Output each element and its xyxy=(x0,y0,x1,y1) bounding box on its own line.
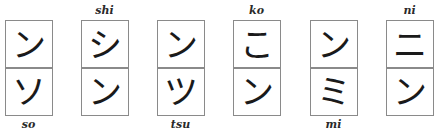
character-pair: ニ ン xyxy=(386,20,433,115)
character-cell-bottom: ツ xyxy=(157,67,205,116)
character-cell-top: ン xyxy=(310,20,358,69)
character-cell-bottom: ン xyxy=(81,67,129,116)
character-cell-bottom: ソ xyxy=(5,67,53,116)
character-cell-bottom: ン xyxy=(386,67,434,116)
romaji-label: shi xyxy=(81,4,128,17)
character-cell-top: ン xyxy=(157,20,205,69)
romaji-label: mi xyxy=(310,118,357,131)
romaji-label: tsu xyxy=(157,118,204,131)
character-cell-top: ニ xyxy=(386,20,434,69)
character-pair: ン ソ xyxy=(5,20,52,115)
romaji-label: so xyxy=(5,118,52,131)
character-pair: こ ン xyxy=(233,20,280,115)
romaji-label: ko xyxy=(233,4,280,17)
character-pair: シ ン xyxy=(81,20,128,115)
character-cell-top: こ xyxy=(233,20,281,69)
character-pair: ン ミ xyxy=(310,20,357,115)
character-pair: ン ツ xyxy=(157,20,204,115)
character-cell-top: ン xyxy=(5,20,53,69)
romaji-label: ni xyxy=(386,4,433,17)
character-cell-bottom: ミ xyxy=(310,67,358,116)
character-cell-bottom: ン xyxy=(233,67,281,116)
character-cell-top: シ xyxy=(81,20,129,69)
